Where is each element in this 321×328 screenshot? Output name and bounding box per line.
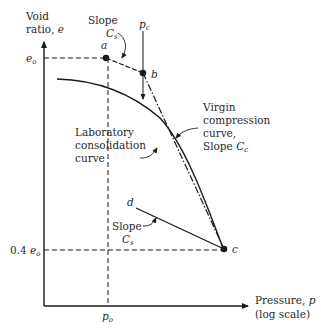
- slope-cs-bottom-line2: Cs: [122, 233, 134, 247]
- virgin-label-line1: Virgin: [202, 101, 236, 113]
- point-a: [103, 55, 110, 62]
- point-c: [221, 246, 228, 253]
- po-tick-label: po: [102, 310, 113, 324]
- y-axis-label-line2: ratio, e: [26, 23, 64, 35]
- slope-cs-top-arrow: [118, 33, 125, 58]
- slope-cs-bottom-arrow: [143, 218, 156, 226]
- slope-cs-top-line1: Slope: [88, 14, 118, 26]
- 04eo-tick-label: 0.4 eo: [10, 244, 40, 258]
- slope-cs-bottom-line1: Slope: [112, 220, 142, 232]
- slope-cs-top-line2: Cs: [106, 27, 118, 41]
- point-a-label: a: [101, 39, 107, 51]
- virgin-label-line2: compression: [203, 114, 271, 126]
- virgin-label-line3: curve,: [203, 127, 236, 139]
- virgin-label-line4: Slope Cc: [203, 140, 248, 154]
- point-b: [140, 70, 147, 77]
- eo-tick-label: eo: [26, 52, 36, 66]
- consolidation-diagram: Void ratio, e eo 0.4 eo po Pressure, p (…: [0, 0, 321, 328]
- pc-label: pc: [139, 18, 150, 32]
- recompression-segment-ab: [106, 58, 143, 73]
- x-axis-label-line2: (log scale): [255, 308, 310, 320]
- x-axis-label-line1: Pressure, p: [255, 294, 316, 306]
- point-c-label: c: [232, 243, 238, 255]
- lab-label-line2: consolidation: [75, 139, 146, 151]
- point-b-label: b: [151, 68, 158, 80]
- virgin-label-arrow: [176, 128, 198, 138]
- lab-label-line1: Laboratory: [75, 126, 134, 138]
- y-axis-label-line1: Void: [25, 10, 49, 22]
- virgin-compression-line: [143, 73, 224, 249]
- lab-label-line3: curve: [75, 152, 105, 164]
- point-d-label: d: [127, 196, 134, 208]
